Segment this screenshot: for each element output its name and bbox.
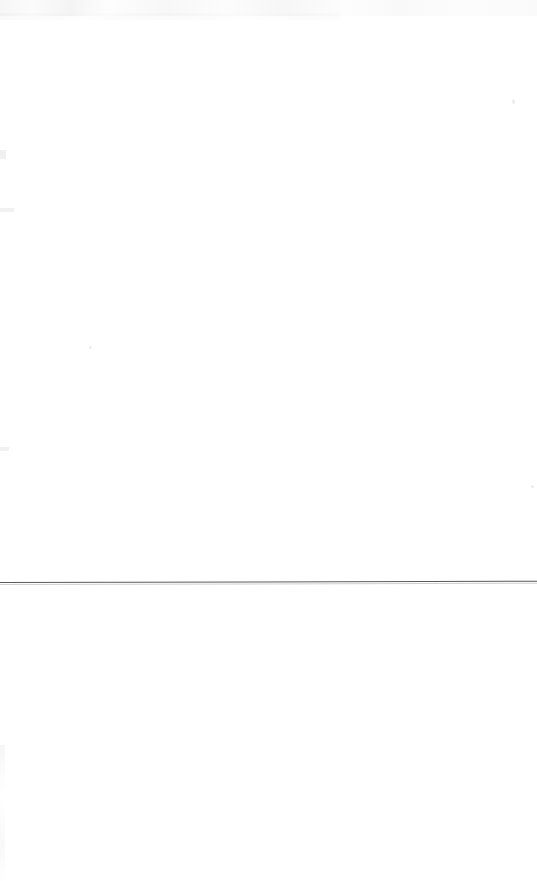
speck-artifact	[531, 485, 534, 488]
scanned-page	[0, 0, 537, 881]
speck-artifact	[89, 346, 92, 349]
left-edge-artifact	[0, 447, 9, 451]
left-edge-artifact	[0, 150, 6, 159]
speck-artifact	[512, 99, 515, 104]
left-edge-shading-artifact	[0, 745, 5, 881]
top-smudge-artifact-secondary	[0, 13, 340, 20]
horizontal-rule	[0, 581, 537, 583]
top-smudge-artifact	[0, 0, 537, 16]
left-edge-artifact	[0, 208, 14, 212]
